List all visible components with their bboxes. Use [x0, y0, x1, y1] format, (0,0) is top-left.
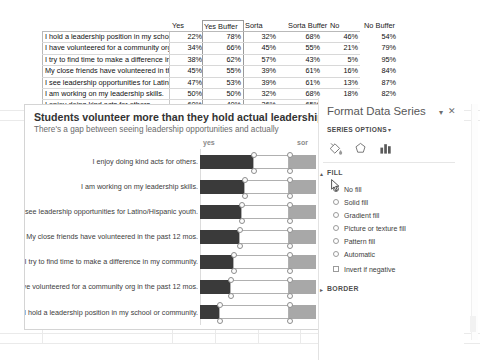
bar-segment-sorta[interactable]	[289, 155, 316, 169]
selection-handle[interactable]	[217, 318, 223, 324]
selection-handle[interactable]	[231, 252, 237, 258]
bar-segment-yes[interactable]	[200, 305, 219, 319]
cell-sorta[interactable]: 57%	[246, 55, 278, 65]
cell-yes[interactable]: 45%	[172, 66, 204, 76]
vertical-scrollbar[interactable]	[471, 104, 478, 340]
table-row[interactable]: My close friends have volunteered in the…	[42, 66, 360, 77]
selection-handle[interactable]	[231, 268, 237, 274]
cell-yes-buffer[interactable]: 55%	[202, 66, 244, 76]
cell-no-buffer[interactable]: 54%	[366, 32, 398, 42]
bar-segment-yes-buffer[interactable]	[253, 155, 289, 169]
stacked-bar[interactable]	[200, 205, 316, 219]
selection-handle[interactable]	[239, 218, 245, 224]
section-header-border[interactable]: BORDER	[327, 285, 359, 292]
table-row[interactable]: I see leadership opportunities for Latin…	[42, 78, 360, 89]
bar-segment-yes[interactable]	[200, 280, 230, 294]
selection-handle[interactable]	[287, 177, 293, 183]
minimize-icon[interactable]: ▾	[439, 108, 443, 117]
table-row[interactable]: I have volunteered for a community org i…	[42, 43, 360, 54]
selection-handle[interactable]	[287, 293, 293, 299]
bar-segment-sorta[interactable]	[289, 180, 316, 194]
bar-segment-yes-buffer[interactable]	[241, 205, 289, 219]
bar-segment-sorta[interactable]	[289, 280, 316, 294]
bar-segment-yes-buffer[interactable]	[219, 305, 289, 319]
cell-sorta[interactable]: 32%	[246, 32, 278, 42]
cell-no-buffer[interactable]: 87%	[366, 78, 398, 88]
bar-segment-yes[interactable]	[200, 180, 244, 194]
cell-sorta-buffer[interactable]: 55%	[290, 43, 322, 53]
table-row[interactable]: I try to find time to make a difference …	[42, 55, 360, 66]
section-header-fill[interactable]: FILL	[327, 169, 343, 176]
selection-handle[interactable]	[242, 177, 248, 183]
cell-no-buffer[interactable]: 95%	[366, 55, 398, 65]
selection-handle[interactable]	[287, 243, 293, 249]
cell-sorta[interactable]: 39%	[246, 78, 278, 88]
selection-handle[interactable]	[287, 218, 293, 224]
close-icon[interactable]: ✕	[448, 106, 456, 116]
radio-pattern-fill[interactable]	[333, 238, 339, 244]
bar-segment-yes[interactable]	[200, 205, 241, 219]
scrollbar-thumb[interactable]	[470, 316, 476, 332]
cell-no[interactable]: 21%	[328, 43, 360, 53]
chevron-down-icon[interactable]: ▾	[388, 126, 391, 133]
bar-segment-yes[interactable]	[200, 230, 239, 244]
cell-yes[interactable]: 47%	[172, 78, 204, 88]
chart-category-row[interactable]: I see leadership opportunities for Latin…	[25, 199, 320, 224]
cell-no[interactable]: 16%	[328, 66, 360, 76]
radio-solid-fill[interactable]	[333, 199, 339, 205]
cell-yes[interactable]: 50%	[172, 89, 204, 99]
cell-no[interactable]: 46%	[328, 32, 360, 42]
selection-handle[interactable]	[287, 193, 293, 199]
cell-sorta[interactable]: 32%	[246, 89, 278, 99]
cell-sorta-buffer[interactable]: 43%	[290, 55, 322, 65]
column-header-no-buffer[interactable]: No Buffer	[364, 20, 410, 31]
bar-chart-icon[interactable]	[377, 140, 394, 157]
selection-handle[interactable]	[237, 227, 243, 233]
cell-yes-buffer[interactable]: 53%	[202, 78, 244, 88]
bar-segment-yes-buffer[interactable]	[244, 180, 289, 194]
pane-icon-row[interactable]	[321, 140, 463, 160]
cell-yes-buffer[interactable]: 62%	[202, 55, 244, 65]
selection-handle[interactable]	[287, 152, 293, 158]
bar-segment-yes-buffer[interactable]	[233, 255, 289, 269]
cell-no-buffer[interactable]: 79%	[366, 43, 398, 53]
table-row[interactable]: I hold a leadership position in my schoo…	[42, 32, 360, 43]
bar-segment-sorta[interactable]	[289, 205, 316, 219]
bar-segment-yes-buffer[interactable]	[239, 230, 289, 244]
cell-yes-buffer[interactable]: 50%	[202, 89, 244, 99]
table-row[interactable]: I am working on my leadership skills. 50…	[42, 89, 360, 100]
stacked-bar[interactable]	[200, 230, 316, 244]
selection-handle[interactable]	[287, 168, 293, 174]
format-data-series-pane[interactable]: Format Data Series ▾ ✕ SERIES OPTIONS ▾	[318, 98, 464, 360]
radio-gradient-fill[interactable]	[333, 212, 339, 218]
column-header-sorta[interactable]: Sorta	[245, 20, 285, 31]
cell-no[interactable]: 5%	[328, 55, 360, 65]
selection-handle[interactable]	[287, 202, 293, 208]
chart-category-row[interactable]: I hold a leadership position in my schoo…	[25, 300, 320, 325]
selection-handle[interactable]	[287, 252, 293, 258]
chart-category-row[interactable]: I try to find time to make a difference …	[25, 249, 320, 274]
radio-automatic[interactable]	[333, 251, 339, 257]
bar-segment-yes[interactable]	[200, 255, 233, 269]
selection-handle[interactable]	[251, 168, 257, 174]
selection-handle[interactable]	[287, 268, 293, 274]
cell-yes-buffer[interactable]: 66%	[202, 43, 244, 53]
cell-sorta[interactable]: 45%	[246, 43, 278, 53]
column-header-sorta-buffer[interactable]: Sorta Buffer	[288, 20, 334, 31]
selection-handle[interactable]	[237, 243, 243, 249]
selection-handle[interactable]	[287, 227, 293, 233]
chart-category-row[interactable]: I am working on my leadership skills.	[25, 174, 320, 199]
chart-category-row[interactable]: I enjoy doing kind acts for others.	[25, 149, 320, 174]
stacked-bar[interactable]	[200, 255, 316, 269]
series-options-label[interactable]: SERIES OPTIONS	[327, 126, 387, 133]
chevron-right-icon[interactable]: ▸	[320, 286, 323, 293]
paint-bucket-icon[interactable]	[327, 140, 344, 157]
bar-segment-sorta[interactable]	[289, 230, 316, 244]
selection-handle[interactable]	[242, 193, 248, 199]
bar-segment-yes-buffer[interactable]	[230, 280, 289, 294]
bar-segment-sorta[interactable]	[289, 255, 316, 269]
stacked-bar[interactable]	[200, 280, 316, 294]
pentagon-effects-icon[interactable]	[352, 140, 369, 157]
stacked-bar[interactable]	[200, 305, 316, 319]
stacked-bar[interactable]	[200, 180, 316, 194]
